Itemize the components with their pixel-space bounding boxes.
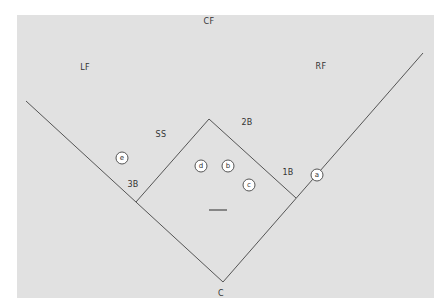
player-marker-label: a: [315, 172, 319, 179]
player-marker-label: b: [226, 163, 230, 170]
position-label-lf: LF: [80, 63, 90, 72]
left-foul-line: [26, 101, 223, 282]
player-marker-label: c: [247, 182, 251, 189]
player-marker-a: a: [311, 169, 324, 182]
position-label-rf: RF: [316, 62, 327, 71]
position-label-cf: CF: [204, 17, 215, 26]
player-marker-e: e: [116, 152, 129, 165]
position-label-3b: 3B: [127, 180, 138, 189]
player-marker-d: d: [195, 160, 208, 173]
position-label-1b: 1B: [282, 168, 293, 177]
right-foul-line: [223, 53, 423, 282]
field-lines: [0, 0, 448, 308]
player-marker-label: e: [120, 155, 124, 162]
player-marker-c: c: [243, 179, 256, 192]
position-label-c: C: [218, 289, 224, 298]
position-label-ss: SS: [156, 130, 167, 139]
position-label-2b: 2B: [241, 118, 252, 127]
player-marker-label: d: [199, 163, 203, 170]
player-marker-b: b: [222, 160, 235, 173]
